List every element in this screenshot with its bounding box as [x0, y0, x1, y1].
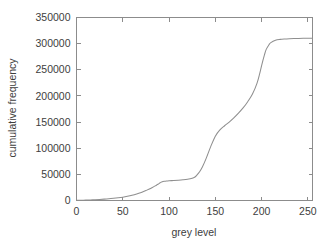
x-axis-title: grey level [172, 226, 217, 238]
x-axis-ticks [77, 18, 308, 201]
y-axis-title: cumulative frequency [6, 58, 18, 158]
x-tick-label: 0 [74, 205, 80, 217]
chart-figure: 0500001000001500002000002500003000003500… [0, 0, 329, 246]
y-tick-label: 350000 [35, 11, 70, 23]
y-axis-tick-labels: 0500001000001500002000002500003000003500… [35, 11, 70, 206]
x-tick-label: 100 [160, 205, 178, 217]
x-tick-label: 50 [117, 205, 129, 217]
y-tick-label: 200000 [35, 90, 70, 102]
x-tick-label: 250 [299, 205, 317, 217]
y-tick-label: 150000 [35, 116, 70, 128]
y-axis-ticks [77, 18, 313, 201]
y-tick-label: 50000 [41, 168, 70, 180]
plot-frame [77, 18, 313, 201]
y-tick-label: 300000 [35, 37, 70, 49]
cumulative-frequency-curve [77, 38, 313, 200]
x-tick-label: 150 [207, 205, 225, 217]
y-tick-label: 250000 [35, 63, 70, 75]
y-tick-label: 0 [65, 194, 71, 206]
x-axis-tick-labels: 050100150200250 [74, 205, 317, 217]
x-tick-label: 200 [253, 205, 271, 217]
cumulative-frequency-chart: 0500001000001500002000002500003000003500… [0, 0, 329, 246]
y-tick-label: 100000 [35, 142, 70, 154]
